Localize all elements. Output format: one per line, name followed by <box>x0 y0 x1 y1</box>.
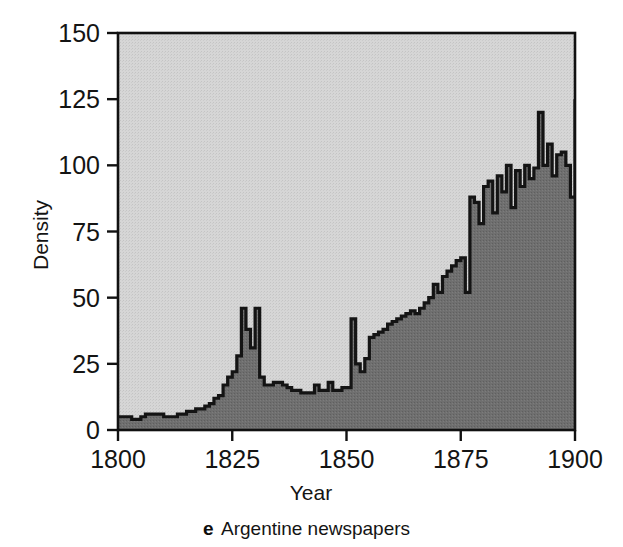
x-tick-label: 1850 <box>319 445 375 473</box>
y-axis-title: Density <box>29 199 52 270</box>
x-tick-label: 1875 <box>433 445 489 473</box>
x-tick-label: 1800 <box>90 445 146 473</box>
y-tick-label: 100 <box>58 151 100 179</box>
x-tick-label: 1825 <box>204 445 260 473</box>
caption-label: Argentine newspapers <box>221 518 410 539</box>
x-tick-label: 1900 <box>547 445 603 473</box>
chart-figure: 0255075100125150 18001825185018751900 Ye… <box>0 0 623 547</box>
x-axis-title: Year <box>290 481 332 504</box>
y-tick-label: 50 <box>72 284 100 312</box>
caption-panel-letter: e <box>203 518 214 539</box>
y-tick-label: 0 <box>86 416 100 444</box>
figure-caption: e Argentine newspapers <box>203 518 410 539</box>
y-tick-label: 150 <box>58 19 100 47</box>
chart-svg: 0255075100125150 18001825185018751900 Ye… <box>0 0 623 547</box>
y-tick-label: 125 <box>58 85 100 113</box>
y-tick-label: 25 <box>72 350 100 378</box>
y-tick-label: 75 <box>72 218 100 246</box>
